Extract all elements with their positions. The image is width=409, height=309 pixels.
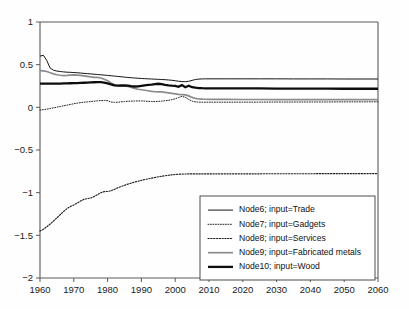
x-tick-label: 1980 (97, 284, 118, 295)
series-line-gadgets (40, 96, 378, 110)
series-line-wood (40, 82, 378, 89)
x-tick-label: 1990 (131, 284, 152, 295)
chart-figure: 10.50−0.5−1−1.5−2 1960197019801990200020… (0, 0, 409, 309)
series-line-fabricated-metals (40, 71, 378, 100)
x-tick-label: 2060 (367, 284, 388, 295)
y-tick-label: −0.5 (14, 144, 33, 155)
y-tick-label: −1.5 (14, 230, 33, 241)
y-axis-ticks: 10.50−0.5−1−1.5−2 (14, 16, 40, 283)
x-tick-label: 2030 (266, 284, 287, 295)
legend-item-label: Node8; input=Services (239, 233, 326, 243)
x-tick-label: 2010 (198, 284, 219, 295)
x-tick-label: 1970 (63, 284, 84, 295)
x-tick-label: 2040 (300, 284, 321, 295)
x-tick-label: 2020 (232, 284, 253, 295)
line-chart: 10.50−0.5−1−1.5−2 1960197019801990200020… (0, 0, 409, 309)
legend-item-label: Node6; input=Trade (239, 204, 315, 214)
legend-item-label: Node10; input=Wood (239, 261, 320, 271)
x-tick-label: 2000 (165, 284, 186, 295)
y-tick-label: 0 (28, 102, 33, 113)
y-tick-label: 1 (28, 16, 33, 27)
legend-item-label: Node7; input=Gadgets (239, 219, 325, 229)
y-tick-label: 0.5 (20, 59, 33, 70)
y-tick-label: −1 (22, 187, 33, 198)
x-tick-label: 2050 (334, 284, 355, 295)
x-tick-label: 1960 (29, 284, 50, 295)
legend-item-label: Node9; input=Fabricated metals (239, 247, 361, 257)
chart-legend: Node6; input=TradeNode7; input=GadgetsNo… (200, 196, 375, 280)
x-axis-ticks: 1960197019801990200020102020203020402050… (29, 278, 388, 295)
y-tick-label: −2 (22, 272, 33, 283)
